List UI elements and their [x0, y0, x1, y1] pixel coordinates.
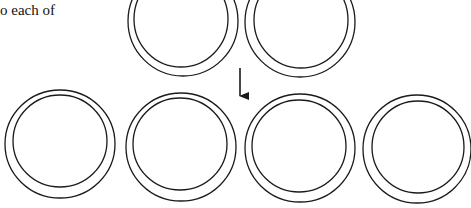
- bottom-cell-1: [5, 90, 115, 198]
- top-cell-1: [128, 0, 238, 76]
- division-figure: [0, 0, 471, 208]
- top-cell-2: [245, 0, 355, 77]
- bottom-cell-4: [363, 95, 471, 203]
- bottom-cell-2: [126, 93, 236, 201]
- bottom-cell-3: [245, 94, 355, 202]
